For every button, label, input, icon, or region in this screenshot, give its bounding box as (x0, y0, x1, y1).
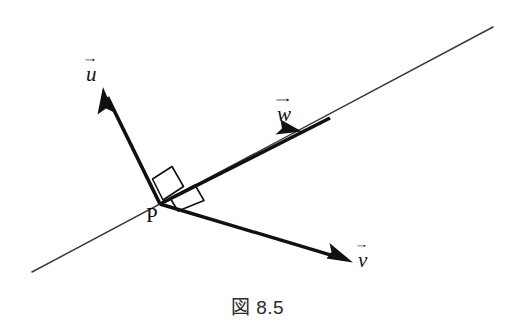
u-overbar-arrow-icon (85, 55, 96, 64)
vector-v-arrowhead (327, 243, 354, 263)
vector-label-v: v (358, 250, 367, 271)
vector-u-shaft (108, 97, 161, 204)
v-overbar-arrow-icon (357, 241, 366, 250)
vector-label-v-text: v (358, 248, 367, 272)
vector-label-w: w (277, 104, 291, 125)
vector-v-shaft (160, 204, 344, 259)
vector-label-w-text: w (277, 102, 291, 126)
vector-w-shaft (160, 118, 330, 204)
vector-label-u: u (86, 64, 97, 85)
point-label-p: P (146, 205, 158, 226)
vector-label-u-text: u (86, 62, 97, 86)
figure-container: u w v P 図 8.5 (0, 0, 515, 333)
w-overbar-arrow-icon (276, 95, 290, 104)
figure-caption: 図 8.5 (0, 292, 515, 319)
vector-diagram-canvas (0, 0, 515, 333)
